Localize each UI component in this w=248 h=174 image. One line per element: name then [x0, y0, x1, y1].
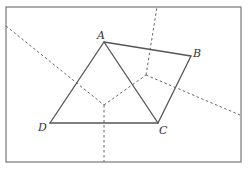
segment-da [50, 42, 104, 123]
geometry-diagram: ABCD [0, 0, 248, 174]
diagram-frame [6, 7, 241, 162]
vertex-label-d: D [37, 121, 47, 134]
vertex-labels: ABCD [37, 29, 201, 137]
quadrilateral-edges [50, 42, 191, 123]
segment-bc [158, 56, 191, 123]
dashed-boundary-line [146, 75, 240, 115]
dashed-boundary-line [6, 26, 104, 105]
vertex-label-b: B [192, 47, 201, 60]
vertex-label-a: A [96, 29, 105, 42]
voronoi-boundaries [6, 7, 240, 162]
segment-ab [104, 42, 191, 56]
vertex-label-c: C [159, 124, 168, 137]
segment-ac [104, 42, 158, 123]
dashed-boundary-line [104, 75, 146, 105]
dashed-boundary-line [146, 7, 157, 75]
